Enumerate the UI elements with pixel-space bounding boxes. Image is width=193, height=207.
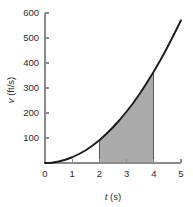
- y-tick-label-100: 100: [23, 132, 39, 143]
- y-axis-ticks: [45, 13, 49, 138]
- x-axis-tick-labels: 012345: [42, 168, 183, 179]
- y-tick-label-200: 200: [23, 107, 39, 118]
- y-axis-tick-labels: 100200300400500600: [23, 7, 39, 143]
- x-tick-label-0: 0: [42, 168, 47, 179]
- chart-canvas: 100200300400500600 012345 t (s) v (ft/s): [0, 0, 193, 207]
- velocity-time-chart: 100200300400500600 012345 t (s) v (ft/s): [0, 0, 193, 207]
- y-axis-title: v (ft/s): [5, 77, 16, 103]
- y-tick-label-300: 300: [23, 82, 39, 93]
- y-tick-label-400: 400: [23, 57, 39, 68]
- x-tick-label-2: 2: [97, 168, 102, 179]
- x-tick-label-5: 5: [178, 168, 183, 179]
- x-tick-label-1: 1: [70, 168, 75, 179]
- y-tick-label-600: 600: [23, 7, 39, 18]
- x-axis-title: t (s): [105, 191, 121, 202]
- y-tick-label-500: 500: [23, 32, 39, 43]
- x-tick-label-4: 4: [151, 168, 156, 179]
- x-tick-label-3: 3: [124, 168, 129, 179]
